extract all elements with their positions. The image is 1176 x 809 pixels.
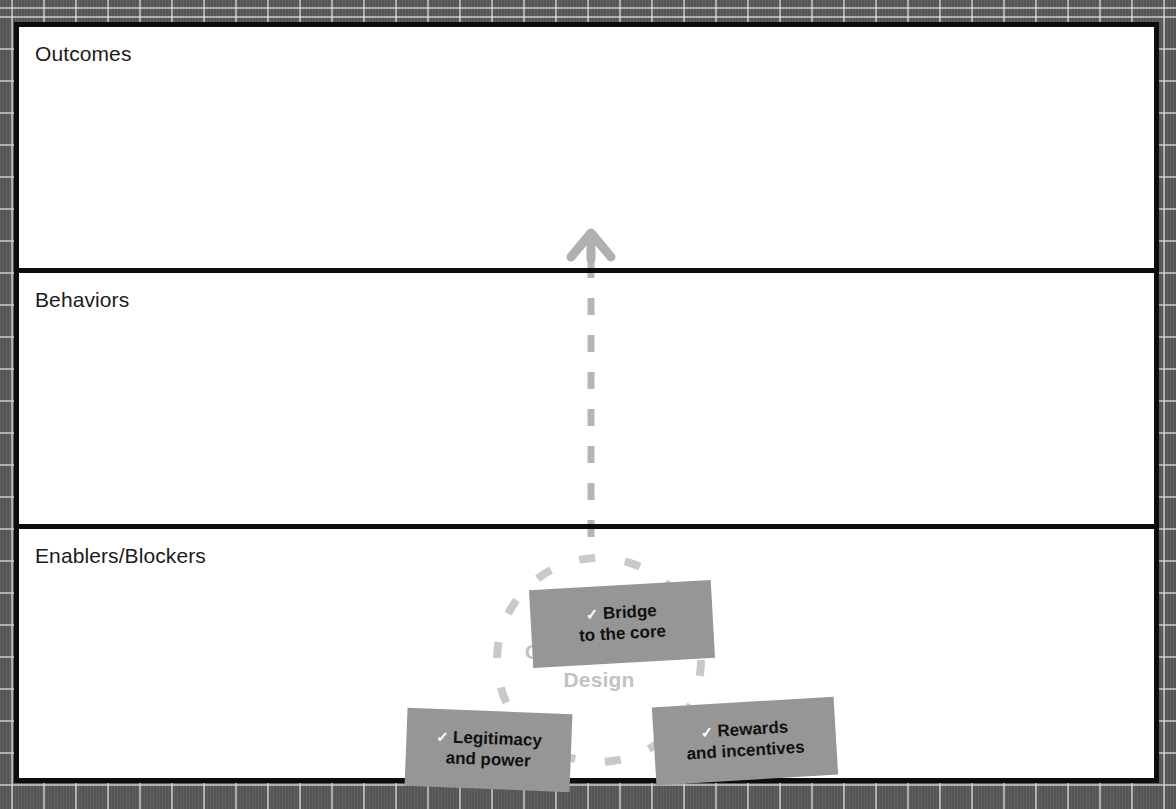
band-label-outcomes: Outcomes bbox=[35, 42, 132, 65]
chip-legitimacy-and-power[interactable]: ✓Legitimacy and power bbox=[405, 708, 573, 792]
check-icon: ✓ bbox=[700, 723, 714, 742]
chip-bridge-to-the-core[interactable]: ✓Bridge to the core bbox=[529, 580, 715, 668]
check-icon: ✓ bbox=[436, 728, 450, 747]
organizational-design-cluster: Organizational Design ✓Bridge to the cor… bbox=[474, 535, 724, 785]
chip-label: Legitimacy and power bbox=[445, 728, 542, 771]
band-behaviors: Behaviors bbox=[19, 273, 1154, 529]
band-label-enablers: Enablers/Blockers bbox=[35, 544, 206, 567]
band-label-behaviors: Behaviors bbox=[35, 288, 129, 311]
graph-paper-background: Outcomes Behaviors Enablers/Blockers Org… bbox=[0, 0, 1176, 809]
check-icon: ✓ bbox=[586, 606, 600, 625]
framework-board: Outcomes Behaviors Enablers/Blockers Org… bbox=[14, 22, 1159, 783]
band-outcomes: Outcomes bbox=[19, 27, 1154, 273]
chip-rewards-and-incentives[interactable]: ✓Rewards and incentives bbox=[652, 697, 838, 786]
